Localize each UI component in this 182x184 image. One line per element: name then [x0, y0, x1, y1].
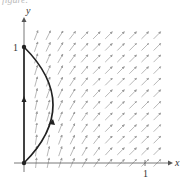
- field-arrow: [105, 136, 112, 143]
- field-arrow: [129, 90, 136, 97]
- field-arrow: [154, 148, 161, 155]
- field-arrow: [47, 112, 50, 122]
- field-arrow: [81, 66, 87, 74]
- field-arrow: [154, 101, 161, 108]
- field-arrow: [82, 112, 88, 120]
- field-arrow: [117, 43, 124, 50]
- field-arrow: [58, 100, 62, 109]
- field-arrow: [93, 32, 100, 39]
- field-arrow: [141, 67, 148, 74]
- field-arrow: [58, 77, 63, 86]
- point-origin: [22, 161, 26, 165]
- field-arrow: [105, 148, 112, 155]
- field-arrow: [141, 43, 148, 50]
- field-arrow: [81, 43, 88, 50]
- field-arrow: [105, 67, 112, 74]
- y-axis-arrow-icon: [22, 17, 27, 22]
- field-arrow: [154, 113, 161, 120]
- direction-field-plot: x y 1 1: [0, 0, 182, 184]
- field-arrow: [154, 136, 161, 143]
- field-arrow: [82, 147, 87, 156]
- segment-direction-arrow-icon: [22, 96, 27, 102]
- field-arrow: [34, 31, 38, 40]
- field-arrow: [81, 32, 88, 39]
- field-arrow: [105, 113, 112, 120]
- field-arrow: [93, 113, 99, 121]
- field-arrow: [93, 67, 100, 74]
- field-arrow: [129, 125, 136, 132]
- field-arrow: [93, 101, 100, 108]
- field-arrow: [47, 100, 50, 109]
- field-arrow: [117, 136, 124, 143]
- field-arrow: [141, 55, 148, 62]
- field-arrow: [47, 135, 49, 145]
- field-arrow: [82, 136, 87, 144]
- field-arrow: [35, 135, 36, 145]
- field-arrow: [93, 78, 100, 85]
- field-arrow: [129, 101, 136, 108]
- field-arrow: [105, 101, 112, 108]
- field-arrow: [59, 147, 62, 156]
- field-arrow: [35, 112, 37, 122]
- field-arrow: [129, 148, 136, 155]
- y-tick-label: 1: [13, 42, 18, 53]
- field-arrow: [117, 78, 124, 85]
- field-arrow: [129, 55, 136, 62]
- field-arrow: [35, 65, 38, 75]
- field-arrow: [58, 54, 63, 63]
- field-arrow: [35, 89, 37, 99]
- field-arrow: [70, 147, 74, 156]
- field-arrow: [70, 124, 75, 133]
- field-arrow: [154, 90, 161, 97]
- field-arrow: [141, 125, 148, 132]
- field-arrow: [117, 67, 124, 74]
- field-arrow: [82, 124, 87, 132]
- field-arrow: [105, 125, 112, 132]
- field-arrow: [59, 135, 62, 144]
- field-arrow: [46, 42, 50, 51]
- field-arrow: [154, 67, 161, 74]
- field-arrow: [70, 101, 75, 110]
- field-arrow: [70, 112, 75, 121]
- field-arrow: [81, 89, 87, 97]
- field-arrow: [70, 78, 75, 86]
- field-arrow: [34, 42, 37, 51]
- solution-curve: [24, 47, 53, 163]
- y-axis-label: y: [25, 5, 31, 16]
- field-arrow: [154, 32, 161, 39]
- field-arrow: [93, 124, 99, 132]
- field-arrow: [69, 55, 75, 63]
- field-arrow: [58, 124, 62, 133]
- field-arrow: [141, 78, 148, 85]
- field-arrow: [129, 78, 136, 85]
- field-arrow: [46, 66, 50, 75]
- field-arrow: [129, 136, 136, 143]
- field-arrow: [117, 55, 124, 62]
- field-arrow: [154, 125, 161, 132]
- field-arrow: [58, 31, 63, 39]
- field-arrow: [129, 43, 136, 50]
- field-arrow: [58, 89, 62, 98]
- field-arrow: [117, 101, 124, 108]
- field-arrow: [105, 32, 112, 39]
- field-arrow: [141, 90, 148, 97]
- field-arrow: [141, 113, 148, 120]
- field-arrow: [154, 55, 161, 62]
- field-arrow: [154, 78, 161, 85]
- field-arrow: [141, 136, 148, 143]
- field-arrow: [141, 148, 148, 155]
- field-arrow: [58, 43, 63, 52]
- field-arrow: [81, 55, 88, 63]
- field-arrow: [82, 101, 88, 109]
- field-arrow: [105, 90, 112, 97]
- field-arrow: [141, 101, 148, 108]
- field-arrow: [117, 113, 124, 120]
- x-axis-arrow-icon: [168, 161, 173, 166]
- x-axis-label: x: [174, 157, 180, 168]
- field-arrow: [117, 125, 124, 132]
- field-arrow: [105, 43, 112, 50]
- point-0-1: [22, 45, 26, 49]
- field-arrow: [93, 43, 100, 50]
- field-arrow: [47, 89, 50, 98]
- field-arrow: [69, 43, 75, 51]
